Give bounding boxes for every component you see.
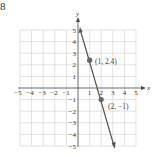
- svg-text:3: 3: [111, 89, 115, 97]
- svg-text:−4: −4: [26, 89, 34, 97]
- svg-text:−5: −5: [69, 143, 77, 151]
- point-2-label: (2, −1): [108, 102, 129, 111]
- svg-text:3: 3: [73, 50, 77, 58]
- x-axis-label: x: [146, 84, 151, 92]
- svg-text:−2: −2: [69, 108, 77, 116]
- svg-text:4: 4: [73, 38, 77, 46]
- svg-text:−3: −3: [69, 119, 77, 127]
- svg-text:1: 1: [88, 89, 92, 97]
- svg-text:−3: −3: [38, 89, 46, 97]
- point-2-neg1: [99, 97, 104, 102]
- svg-text:1: 1: [73, 73, 77, 81]
- point-1-2.4: [87, 58, 92, 63]
- x-tick-labels: −5 −4 −3 −2 −1 1 2 3 4 5: [14, 89, 138, 97]
- svg-text:2: 2: [73, 61, 77, 69]
- x-axis-arrow-icon: [141, 86, 146, 90]
- coordinate-plane: x y −5 −4 −3 −2 −1 1 2 3 4 5 5 4 3 2 1 −…: [0, 0, 154, 157]
- svg-text:5: 5: [134, 89, 138, 97]
- svg-text:−4: −4: [69, 131, 77, 139]
- svg-text:−1: −1: [69, 96, 77, 104]
- svg-text:4: 4: [123, 89, 127, 97]
- svg-text:−5: −5: [14, 89, 22, 97]
- svg-text:2: 2: [99, 89, 103, 97]
- point-1-label: (1, 2.4): [95, 57, 117, 66]
- line-arrow-bottom-icon: [112, 142, 116, 149]
- svg-text:−2: −2: [50, 89, 58, 97]
- y-axis-label: y: [75, 10, 80, 18]
- svg-text:5: 5: [73, 27, 77, 35]
- y-tick-labels: 5 4 3 2 1 −1 −2 −3 −4 −5: [69, 27, 77, 151]
